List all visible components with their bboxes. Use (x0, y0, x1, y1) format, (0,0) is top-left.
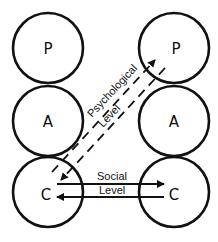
right-person: P A C (139, 13, 209, 227)
right-adult-label: A (169, 113, 180, 131)
right-child-label: C (169, 186, 179, 204)
left-child-label: C (41, 186, 51, 204)
social-transaction: Social Level (57, 170, 164, 197)
right-parent-label: P (171, 40, 180, 58)
psychological-transaction: Psychological Level (52, 60, 165, 180)
social-label: Social (97, 170, 127, 182)
ego-state-diagram: P A C P A C Psychological Level Social L… (0, 0, 218, 242)
social-level-label: Level (99, 184, 125, 196)
left-person: P A C (13, 13, 83, 227)
left-adult-label: A (43, 113, 54, 131)
left-parent-label: P (43, 40, 52, 58)
